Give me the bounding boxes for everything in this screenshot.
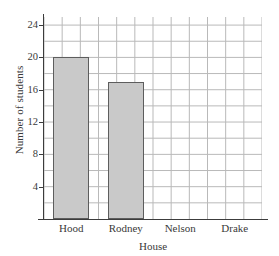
y-tick-label: 24 (14, 20, 38, 30)
x-axis-title: House (44, 240, 262, 252)
y-tick-label: 20 (14, 52, 38, 62)
x-tick-label-drake: Drake (195, 222, 275, 234)
x-axis-ticks: HoodRodneyNelsonDrake (44, 222, 262, 240)
y-tick-mark (39, 154, 44, 155)
x-axis-line (38, 219, 268, 220)
y-tick-label: 8 (14, 149, 38, 159)
y-tick-label: 12 (14, 117, 38, 127)
y-tick-mark (39, 122, 44, 123)
y-tick-mark (39, 90, 44, 91)
y-tick-mark (39, 25, 44, 26)
bars-layer (44, 17, 262, 219)
bar-chart: Number of students 4812162024 HoodRodney… (0, 0, 279, 256)
y-tick-label: 16 (14, 85, 38, 95)
bar-hood (53, 57, 89, 219)
y-tick-mark (39, 187, 44, 188)
bar-rodney (108, 82, 144, 219)
y-tick-label: 4 (14, 182, 38, 192)
y-tick-mark (39, 57, 44, 58)
y-axis-line (43, 14, 44, 220)
